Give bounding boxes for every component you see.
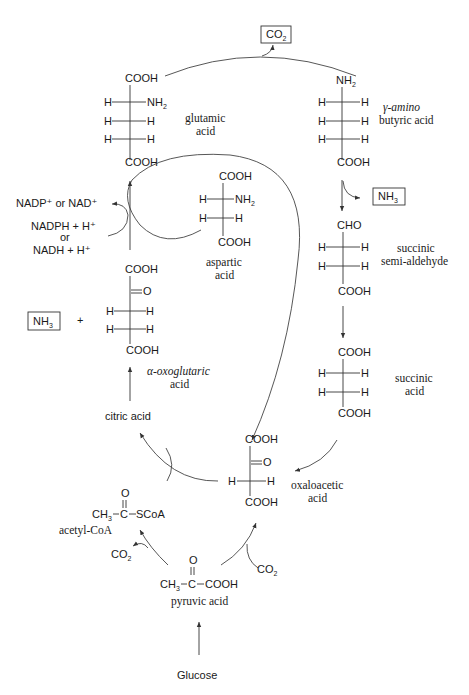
- svg-text:H: H: [318, 260, 326, 272]
- svg-text:H: H: [361, 367, 369, 379]
- svg-text:or: or: [60, 231, 70, 243]
- svg-text:H: H: [199, 193, 207, 205]
- svg-text:H: H: [361, 133, 369, 145]
- gaba-label: γ-amino butyric acid: [379, 101, 434, 127]
- svg-text:COOH: COOH: [126, 344, 159, 356]
- svg-text:COOH: COOH: [337, 156, 370, 168]
- svg-text:H: H: [361, 260, 369, 272]
- transamination-arrow: [342, 180, 360, 211]
- svg-text:COOH: COOH: [338, 285, 371, 297]
- succinic-semialdehyde-structure: CHO H H H H COOH: [318, 219, 371, 297]
- svg-text:O: O: [143, 285, 152, 297]
- svg-text:α-oxoglutaric: α-oxoglutaric: [147, 365, 210, 378]
- co2-top-box: CO2: [261, 26, 291, 43]
- svg-text:H: H: [267, 475, 275, 487]
- svg-text:O: O: [189, 554, 198, 566]
- svg-text:COOH: COOH: [219, 170, 252, 182]
- succinic-acid-label: succinic acid: [395, 372, 433, 397]
- svg-text:H: H: [106, 323, 114, 335]
- succinic-to-oxaloacetic-arrow: [295, 440, 337, 471]
- svg-text:COOH: COOH: [125, 263, 158, 275]
- co2-oxaloacetate-label: CO2: [257, 563, 278, 577]
- svg-text:COOH: COOH: [338, 407, 371, 419]
- svg-text:H: H: [228, 475, 236, 487]
- svg-text:H: H: [318, 386, 326, 398]
- svg-text:H: H: [104, 133, 112, 145]
- svg-text:acid: acid: [170, 378, 189, 390]
- svg-text:H: H: [146, 305, 154, 317]
- svg-text:COOH: COOH: [338, 346, 371, 358]
- acetyl-coa-structure: O CH3 C SCoA: [92, 487, 165, 522]
- plus-sign: +: [77, 314, 83, 326]
- svg-text:H: H: [318, 133, 326, 145]
- svg-text:SCoA: SCoA: [136, 508, 165, 520]
- svg-text:γ-amino: γ-amino: [383, 101, 420, 114]
- svg-text:H: H: [146, 323, 154, 335]
- svg-text:H: H: [361, 241, 369, 253]
- svg-text:NADH + H⁺: NADH + H⁺: [33, 244, 91, 256]
- svg-text:acid: acid: [405, 385, 424, 397]
- svg-text:glutamic: glutamic: [185, 112, 225, 125]
- svg-text:butyric acid: butyric acid: [379, 114, 434, 127]
- co2-acetyl-label: CO2: [111, 548, 132, 562]
- nh3-right-box: NH3: [373, 188, 405, 205]
- svg-text:H: H: [318, 241, 326, 253]
- svg-text:semi-aldehyde: semi-aldehyde: [381, 255, 448, 268]
- svg-text:acid: acid: [308, 492, 327, 504]
- svg-text:COOH: COOH: [245, 496, 278, 508]
- pyruvic-acid-structure: O CH3 C COOH: [160, 554, 238, 592]
- svg-text:COOH: COOH: [125, 156, 158, 168]
- svg-text:O: O: [263, 456, 272, 468]
- acetyl-coa-label: acetyl-CoA: [59, 524, 113, 537]
- decarboxylation-arc: [165, 45, 356, 76]
- svg-text:oxaloacetic: oxaloacetic: [291, 479, 343, 491]
- svg-text:H: H: [361, 386, 369, 398]
- svg-text:H: H: [361, 115, 369, 127]
- svg-text:H: H: [147, 115, 155, 127]
- svg-text:H: H: [318, 96, 326, 108]
- svg-text:CH3: CH3: [160, 578, 180, 592]
- svg-text:H: H: [318, 115, 326, 127]
- gaba-structure: NH2 H H H H H H COOH: [318, 74, 370, 168]
- svg-text:CHO: CHO: [337, 219, 362, 231]
- svg-text:COOH: COOH: [218, 236, 251, 248]
- aspartate-transamination-loop: [128, 154, 300, 440]
- nh3-left-box: NH3: [28, 312, 60, 330]
- svg-text:CH3: CH3: [92, 508, 112, 522]
- oxaloacetic-acid-label: oxaloacetic acid: [291, 479, 343, 504]
- svg-text:H: H: [361, 96, 369, 108]
- succinic-acid-structure: COOH H H H H COOH: [318, 346, 371, 419]
- oxaloacetic-acid-structure: COOH O H H COOH: [228, 433, 278, 508]
- svg-text:H: H: [147, 133, 155, 145]
- svg-text:succinic: succinic: [395, 372, 433, 384]
- svg-text:COOH: COOH: [245, 433, 278, 445]
- svg-text:O: O: [121, 487, 130, 499]
- citrate-synthase-arc: [140, 433, 218, 481]
- aspartic-acid-structure: COOH H NH2 H H COOH: [199, 170, 255, 248]
- svg-text:H: H: [104, 115, 112, 127]
- glutamic-acid-structure: COOH H NH2 H H H H COOH: [104, 72, 167, 168]
- svg-text:NH2: NH2: [336, 74, 356, 88]
- svg-text:aspartic: aspartic: [206, 256, 242, 269]
- aspartic-acid-label: aspartic acid: [206, 256, 242, 281]
- svg-text:NADP⁺ or NAD⁺: NADP⁺ or NAD⁺: [16, 197, 97, 209]
- pyruvic-acid-label: pyruvic acid: [171, 595, 228, 608]
- glutamic-acid-label: glutamic acid: [185, 112, 225, 137]
- svg-text:C: C: [188, 578, 196, 590]
- glucose-label: Glucose: [177, 669, 217, 681]
- svg-text:acid: acid: [215, 269, 234, 281]
- pyruvate-carboxylation-arrow: [221, 523, 258, 568]
- svg-text:H: H: [235, 212, 243, 224]
- svg-text:C: C: [120, 508, 128, 520]
- svg-text:COOH: COOH: [125, 72, 158, 84]
- svg-text:succinic: succinic: [397, 242, 435, 254]
- svg-text:H: H: [106, 305, 114, 317]
- cofactor-labels: NADP⁺ or NAD⁺ NADPH + H⁺ or NADH + H⁺: [16, 197, 97, 256]
- pyruvate-decarboxylation-arrow: [133, 530, 168, 565]
- citric-acid-label: citric acid: [105, 410, 151, 422]
- svg-text:acid: acid: [196, 125, 215, 137]
- succinic-semialdehyde-label: succinic semi-aldehyde: [381, 242, 448, 268]
- svg-text:H: H: [318, 367, 326, 379]
- svg-text:NH2: NH2: [235, 193, 255, 207]
- metabolic-pathway-diagram: CO2 COOH H NH2 H H H H COOH glutamic aci…: [0, 0, 469, 695]
